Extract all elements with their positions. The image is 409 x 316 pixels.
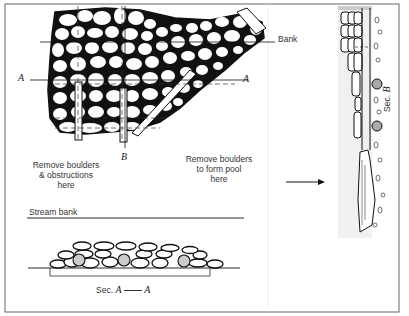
caption-prefix: Sec. bbox=[96, 285, 113, 295]
stream-bank-label: Stream bank bbox=[29, 207, 77, 217]
note-line: & obstructions bbox=[22, 170, 110, 180]
note-line: here bbox=[176, 174, 262, 184]
note-line: to form pool bbox=[176, 164, 262, 174]
remove-obstructions-note: Remove boulders & obstructions here bbox=[22, 160, 110, 190]
section-a-a-caption: Sec. A A bbox=[96, 285, 150, 295]
bank-label: Bank bbox=[278, 34, 297, 44]
note-line: Remove boulders bbox=[22, 160, 110, 170]
section-b-profile bbox=[338, 6, 385, 238]
section-a-a-boulders bbox=[28, 242, 240, 276]
section-b-caption: Sec. B bbox=[382, 87, 392, 113]
remove-pool-note: Remove boulders to form pool here bbox=[176, 154, 262, 184]
caption-prefix: Sec. bbox=[382, 95, 392, 112]
section-a-left-label: A bbox=[18, 73, 24, 83]
caption-a1: A bbox=[115, 284, 121, 295]
caption-dash bbox=[124, 290, 142, 291]
note-line: here bbox=[22, 180, 110, 190]
caption-b: B bbox=[381, 87, 392, 93]
section-a-right-label: A bbox=[243, 74, 249, 84]
section-b-label: B bbox=[121, 152, 127, 162]
caption-a2: A bbox=[144, 284, 150, 295]
flow-arrow-icon bbox=[286, 179, 325, 185]
diagram-frame: Bank A A B Remove boulders & obstruction… bbox=[0, 0, 409, 316]
note-line: Remove boulders bbox=[176, 154, 262, 164]
